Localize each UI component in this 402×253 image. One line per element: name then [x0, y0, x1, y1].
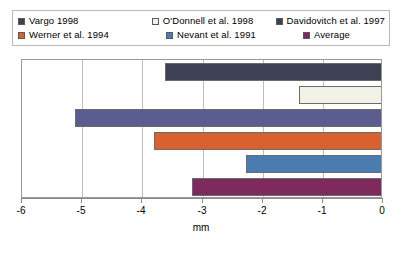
- legend-label: O'Donnell et al. 1998: [163, 16, 254, 26]
- axis-tick-label: -5: [77, 205, 86, 217]
- legend-swatch-icon: [276, 18, 283, 25]
- legend-swatch-icon: [18, 32, 25, 39]
- chart-bar: [154, 132, 382, 150]
- legend-row: Vargo 1998 O'Donnell et al. 1998 Davidov…: [18, 14, 385, 28]
- legend-swatch-icon: [152, 18, 159, 25]
- legend-item-average: Average: [303, 30, 350, 40]
- legend-item-davidovitch-1997: Davidovitch et al. 1997: [276, 16, 385, 26]
- chart-bar: [246, 155, 382, 173]
- legend-label: Average: [314, 30, 350, 40]
- axis-tick: [141, 198, 142, 203]
- legend-row: Werner et al. 1994 Nevant et al. 1991 Av…: [18, 28, 385, 42]
- legend-label: Nevant et al. 1991: [177, 30, 256, 40]
- axis-tick: [202, 198, 203, 203]
- legend-swatch-icon: [166, 32, 173, 39]
- legend-swatch-icon: [18, 18, 25, 25]
- axis-tick: [21, 198, 22, 203]
- axis-tick-label: 0: [379, 205, 385, 217]
- legend-item-werner-1994: Werner et al. 1994: [18, 30, 166, 40]
- chart-bar: [192, 178, 382, 196]
- axis-tick-label: -4: [137, 205, 146, 217]
- chart-bars: [22, 60, 381, 197]
- axis-tick: [382, 198, 383, 203]
- x-axis-label: mm: [0, 222, 402, 234]
- chart-legend: Vargo 1998 O'Donnell et al. 1998 Davidov…: [12, 10, 390, 46]
- chart-bar: [299, 86, 382, 104]
- legend-label: Vargo 1998: [29, 16, 78, 26]
- axis-tick-label: -1: [318, 205, 327, 217]
- legend-label: Werner et al. 1994: [29, 30, 109, 40]
- legend-item-vargo-1998: Vargo 1998: [18, 16, 152, 26]
- axis-tick-label: -6: [17, 205, 26, 217]
- axis-tick-label: -2: [258, 205, 267, 217]
- chart-bar: [75, 109, 382, 127]
- legend-item-nevant-1991: Nevant et al. 1991: [166, 30, 303, 40]
- chart-bar: [165, 63, 382, 81]
- axis-tick: [81, 198, 82, 203]
- legend-label: Davidovitch et al. 1997: [287, 16, 385, 26]
- axis-tick-label: -3: [198, 205, 207, 217]
- axis-tick: [322, 198, 323, 203]
- legend-item-odonnell-1998: O'Donnell et al. 1998: [152, 16, 276, 26]
- legend-swatch-icon: [303, 32, 310, 39]
- axis-tick: [262, 198, 263, 203]
- chart-plot-area: [21, 59, 382, 198]
